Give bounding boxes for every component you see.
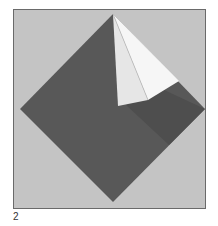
origami-step-photo bbox=[13, 9, 206, 209]
figure-caption-number: 2 bbox=[13, 211, 19, 222]
origami-illustration bbox=[14, 10, 206, 209]
